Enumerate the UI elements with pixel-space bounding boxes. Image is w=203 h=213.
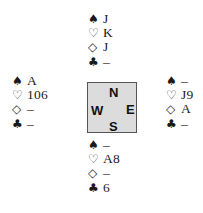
north-diamonds-cards: J bbox=[103, 40, 108, 54]
compass-east-label: E bbox=[126, 103, 135, 116]
south-hearts-cards: A8 bbox=[103, 152, 120, 166]
spade-icon: ♠ bbox=[88, 138, 101, 152]
west-clubs-cards: – bbox=[27, 117, 34, 131]
west-clubs-row: ♣ – bbox=[12, 117, 34, 131]
south-clubs-row: ♣ 6 bbox=[88, 181, 110, 195]
club-icon: ♣ bbox=[12, 117, 25, 131]
east-diamonds-cards: A bbox=[181, 102, 191, 116]
north-hearts-row: ♡ K bbox=[88, 26, 113, 40]
west-diamonds-row: ◇ – bbox=[12, 102, 34, 116]
west-spades-cards: A bbox=[27, 74, 37, 88]
south-clubs-cards: 6 bbox=[103, 181, 110, 195]
compass-north-label: N bbox=[109, 86, 118, 99]
south-spades-cards: – bbox=[103, 138, 110, 152]
heart-icon: ♡ bbox=[88, 26, 101, 40]
north-spades-row: ♠ J bbox=[88, 12, 108, 26]
heart-icon: ♡ bbox=[12, 88, 25, 102]
east-diamonds-row: ◇ A bbox=[166, 102, 191, 116]
south-diamonds-row: ◇ – bbox=[88, 166, 110, 180]
south-spades-row: ♠ – bbox=[88, 138, 110, 152]
heart-icon: ♡ bbox=[166, 88, 179, 102]
diamond-icon: ◇ bbox=[88, 166, 101, 180]
north-spades-cards: J bbox=[103, 12, 108, 26]
diamond-icon: ◇ bbox=[166, 102, 179, 116]
west-spades-row: ♠ A bbox=[12, 74, 37, 88]
diamond-icon: ◇ bbox=[88, 40, 101, 54]
west-hearts-cards: 106 bbox=[27, 88, 48, 102]
east-hearts-cards: J9 bbox=[181, 88, 193, 102]
diamond-icon: ◇ bbox=[12, 102, 25, 116]
spade-icon: ♠ bbox=[12, 74, 25, 88]
compass-box: N W E S bbox=[87, 82, 137, 133]
club-icon: ♣ bbox=[88, 181, 101, 195]
east-hearts-row: ♡ J9 bbox=[166, 88, 193, 102]
north-hearts-cards: K bbox=[103, 26, 113, 40]
south-diamonds-cards: – bbox=[103, 166, 110, 180]
spade-icon: ♠ bbox=[166, 74, 179, 88]
north-diamonds-row: ◇ J bbox=[88, 40, 108, 54]
east-clubs-cards: – bbox=[181, 117, 188, 131]
south-hearts-row: ♡ A8 bbox=[88, 152, 120, 166]
west-diamonds-cards: – bbox=[27, 102, 34, 116]
compass-west-label: W bbox=[91, 104, 103, 117]
east-spades-row: ♠ – bbox=[166, 74, 188, 88]
north-clubs-cards: – bbox=[103, 55, 110, 69]
east-clubs-row: ♣ – bbox=[166, 117, 188, 131]
club-icon: ♣ bbox=[88, 55, 101, 69]
north-clubs-row: ♣ – bbox=[88, 55, 110, 69]
heart-icon: ♡ bbox=[88, 152, 101, 166]
club-icon: ♣ bbox=[166, 117, 179, 131]
west-hearts-row: ♡ 106 bbox=[12, 88, 48, 102]
spade-icon: ♠ bbox=[88, 12, 101, 26]
compass-south-label: S bbox=[109, 120, 118, 133]
east-spades-cards: – bbox=[181, 74, 188, 88]
